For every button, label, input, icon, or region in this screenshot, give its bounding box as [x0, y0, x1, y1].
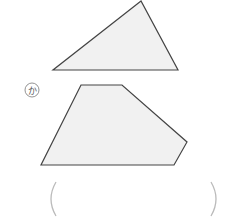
right-paren — [211, 182, 216, 216]
pentagon-shape — [41, 85, 187, 165]
pentagon-label-text: か — [28, 86, 37, 96]
answer-box[interactable] — [51, 182, 216, 216]
triangle-shape — [53, 1, 178, 70]
left-paren — [51, 182, 56, 216]
figure-canvas: か — [0, 0, 232, 217]
pentagon-label: か — [25, 83, 39, 97]
